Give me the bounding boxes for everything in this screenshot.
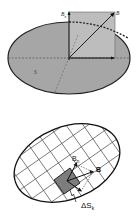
bn-label: Bn xyxy=(61,11,66,19)
gridded-surface-svg: Bn B ΔSk xyxy=(0,110,137,223)
origin-point xyxy=(68,58,70,60)
b-label: B xyxy=(96,166,101,173)
area-element-label: ΔSk xyxy=(81,201,95,211)
flux-surface-svg: Bn B S xyxy=(0,0,137,110)
b-label: B xyxy=(116,10,120,16)
surface-label: S xyxy=(34,69,37,75)
flux-diagram-bottom: Bn B ΔSk xyxy=(0,110,137,223)
flux-diagram-top: Bn B S xyxy=(0,0,137,110)
